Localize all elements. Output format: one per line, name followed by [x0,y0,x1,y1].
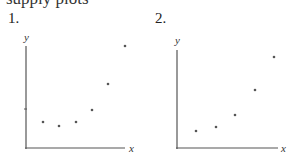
data-point [124,45,127,48]
plot-2-y-label: y [174,34,180,46]
data-point [273,56,276,59]
data-point [42,121,45,124]
data-point [234,114,237,117]
data-point [195,130,198,133]
plot-2-x-label: x [280,142,286,154]
data-point [91,109,94,112]
data-point [215,126,218,129]
data-point [75,121,78,124]
data-point [58,125,61,128]
plot-1-points [42,45,127,128]
plot-1-y-label: y [23,31,29,43]
plot-1-x-label: x [128,142,134,154]
data-point [254,89,257,92]
data-point [107,83,110,86]
plot-2: y x [174,34,286,154]
plot-1: y x [23,31,134,154]
plot-2-points [195,56,276,133]
charts-canvas: y x y x [0,0,295,165]
